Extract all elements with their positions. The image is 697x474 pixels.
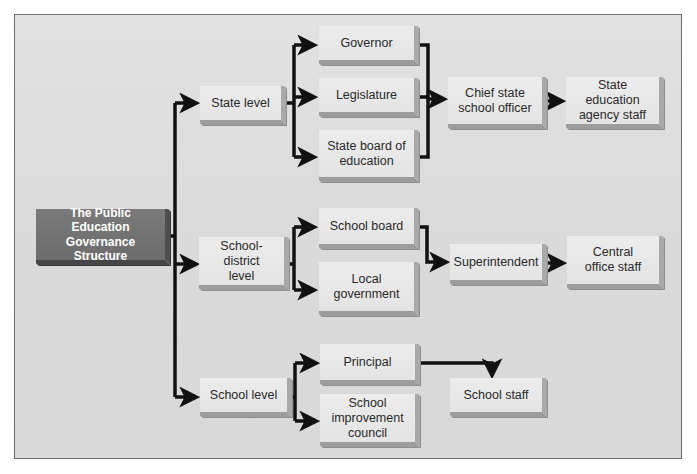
- node-legislature: Legislature: [319, 78, 419, 117]
- node-superintendent: Superintendent: [450, 244, 547, 285]
- node-label: Local government: [333, 272, 399, 302]
- node-label: Chief state school officer: [458, 86, 531, 116]
- node-school-level: School level: [200, 378, 292, 417]
- node-school-improvement-council: School improvement council: [320, 394, 420, 447]
- node-label: School-district level: [203, 239, 280, 284]
- node-local-government: Local government: [319, 262, 419, 316]
- node-label: School level: [210, 388, 277, 403]
- node-label: School staff: [463, 388, 528, 403]
- node-label: Superintendent: [454, 255, 539, 270]
- node-label: School board: [330, 219, 404, 234]
- node-school-staff: School staff: [450, 378, 547, 417]
- node-state-level: State level: [200, 86, 286, 125]
- node-label: School improvement council: [331, 396, 403, 441]
- node-label: State education agency staff: [570, 78, 655, 123]
- node-label: Central office staff: [585, 245, 642, 275]
- node-central-office-staff: Central office staff: [567, 236, 664, 289]
- node-chief-state-school-officer: Chief state school officer: [448, 77, 547, 129]
- root-node-label: The Public Education Governance Structur…: [40, 206, 161, 264]
- node-state-board-of-education: State board of education: [319, 130, 419, 182]
- root-node-governance-structure: The Public Education Governance Structur…: [36, 209, 170, 265]
- node-state-education-agency-staff: State education agency staff: [566, 77, 664, 129]
- node-label: Legislature: [336, 88, 397, 103]
- node-principal: Principal: [320, 344, 420, 385]
- node-label: State level: [211, 96, 269, 111]
- node-label: State board of education: [327, 139, 406, 169]
- node-school-district-level: School-district level: [199, 237, 289, 290]
- node-school-board: School board: [319, 208, 419, 249]
- node-label: Governor: [340, 36, 392, 51]
- node-governor: Governor: [319, 26, 419, 65]
- node-label: Principal: [344, 355, 392, 370]
